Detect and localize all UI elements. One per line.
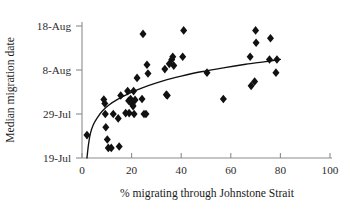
x-tick-label: 0 [79, 164, 85, 176]
regression-fit-curve [87, 59, 280, 158]
data-point [266, 55, 273, 64]
x-axis-group: 020406080100 [79, 153, 339, 176]
y-tick-label: 8-Aug [42, 64, 71, 76]
data-point [180, 26, 187, 35]
y-axis-ticks [76, 26, 82, 158]
data-point [124, 87, 131, 96]
chart-figure: 19-Jul29-Jul8-Aug18-Aug 020406080100 % m… [0, 0, 350, 211]
data-point [140, 30, 147, 39]
data-point [247, 53, 254, 62]
x-axis-ticks [82, 153, 330, 158]
data-point [144, 69, 151, 78]
data-point [272, 68, 279, 77]
data-point [267, 34, 274, 43]
data-points-group [83, 26, 280, 152]
y-axis-tick-labels: 19-Jul29-Jul8-Aug18-Aug [37, 20, 72, 164]
data-point [143, 60, 150, 69]
y-axis-title: Median migration date [4, 37, 17, 143]
data-point [110, 110, 117, 119]
data-point [220, 95, 227, 104]
y-tick-label: 18-Aug [37, 20, 72, 32]
data-point [179, 53, 186, 62]
y-tick-label: 29-Jul [43, 108, 71, 120]
data-point [116, 142, 123, 151]
data-point [102, 123, 109, 132]
data-point [130, 87, 137, 96]
data-point [139, 95, 146, 104]
x-tick-label: 100 [322, 164, 339, 176]
data-point [115, 114, 122, 123]
x-tick-label: 60 [225, 164, 237, 176]
data-point [252, 26, 259, 35]
x-axis-title: % migrating through Johnstone Strait [120, 187, 295, 200]
data-point [253, 38, 260, 47]
x-tick-label: 40 [176, 164, 188, 176]
data-point [273, 55, 280, 64]
data-point [104, 135, 111, 144]
x-tick-label: 80 [275, 164, 287, 176]
y-tick-label: 19-Jul [43, 152, 71, 164]
data-point [161, 65, 168, 74]
x-tick-label: 20 [126, 164, 138, 176]
data-point [134, 74, 141, 83]
scatter-plot-svg: 19-Jul29-Jul8-Aug18-Aug 020406080100 % m… [0, 0, 350, 211]
y-axis-group: 19-Jul29-Jul8-Aug18-Aug [37, 20, 82, 164]
x-axis-tick-labels: 020406080100 [79, 164, 339, 176]
data-point [131, 110, 138, 119]
